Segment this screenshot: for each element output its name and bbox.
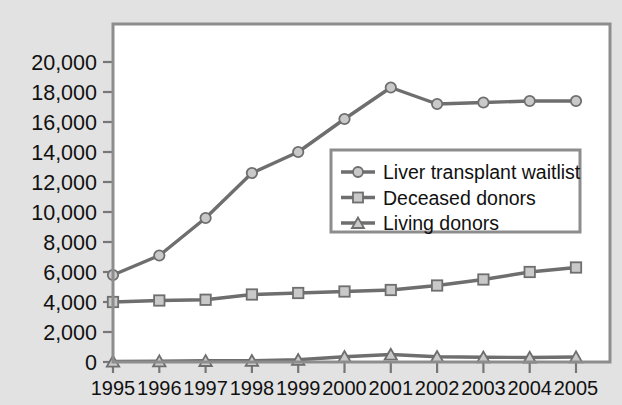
square-data-point xyxy=(525,267,535,277)
circle-data-point xyxy=(353,167,363,177)
y-axis-tick-labels: 02,0004,0006,0008,00010,00012,00014,0001… xyxy=(31,51,97,375)
x-axis-tick-label: 2002 xyxy=(415,377,460,399)
x-axis-tick-labels: 1995199619971998199920002001200220032004… xyxy=(91,377,599,399)
line-chart: 02,0004,0006,0008,00010,00012,00014,0001… xyxy=(0,0,622,405)
circle-data-point xyxy=(293,147,303,157)
square-data-point xyxy=(386,285,396,295)
square-data-point xyxy=(571,262,581,272)
x-axis-tick-label: 2001 xyxy=(369,377,414,399)
circle-data-point xyxy=(200,213,210,223)
square-data-point xyxy=(432,280,442,290)
square-data-point xyxy=(293,288,303,298)
y-axis-tick-label: 14,000 xyxy=(31,141,97,165)
circle-data-point xyxy=(154,250,164,260)
y-axis-tick-label: 12,000 xyxy=(31,171,97,195)
x-axis-tick-label: 2004 xyxy=(507,377,552,399)
circle-data-point xyxy=(339,114,349,124)
square-data-point xyxy=(353,193,363,203)
y-axis-tick-label: 0 xyxy=(85,351,97,375)
x-axis-tick-label: 2003 xyxy=(461,377,506,399)
square-data-point xyxy=(478,274,488,284)
y-axis-tick-label: 16,000 xyxy=(31,111,97,135)
y-axis-tick-label: 2,000 xyxy=(43,321,97,345)
chart-legend: Liver transplant waitlistDeceased donors… xyxy=(331,150,581,234)
y-axis-tick-label: 4,000 xyxy=(43,291,97,315)
legend-label: Liver transplant waitlist xyxy=(383,161,581,183)
y-axis-tick-label: 18,000 xyxy=(31,81,97,105)
legend-label: Deceased donors xyxy=(383,187,536,209)
x-axis-tick-label: 1996 xyxy=(137,377,182,399)
x-axis-tick-label: 1995 xyxy=(91,377,136,399)
square-data-point xyxy=(200,295,210,305)
chart-figure: 02,0004,0006,0008,00010,00012,00014,0001… xyxy=(0,0,622,405)
x-axis-tick-label: 2005 xyxy=(554,377,599,399)
circle-data-point xyxy=(478,97,488,107)
square-data-point xyxy=(339,286,349,296)
x-axis-tick-label: 2000 xyxy=(322,377,367,399)
y-axis-tick-label: 8,000 xyxy=(43,231,97,255)
circle-data-point xyxy=(525,96,535,106)
circle-data-point xyxy=(571,96,581,106)
y-axis-tick-label: 20,000 xyxy=(31,51,97,75)
x-axis-tick-label: 1998 xyxy=(230,377,275,399)
y-axis-tick-label: 10,000 xyxy=(31,201,97,225)
circle-data-point xyxy=(432,99,442,109)
x-axis-tick-label: 1999 xyxy=(276,377,321,399)
x-axis-tick-marks xyxy=(113,362,576,373)
square-data-point xyxy=(154,295,164,305)
circle-data-point xyxy=(247,168,257,178)
legend-label: Living donors xyxy=(383,212,499,234)
x-axis-tick-label: 1997 xyxy=(183,377,228,399)
circle-data-point xyxy=(386,82,396,92)
y-axis-tick-label: 6,000 xyxy=(43,261,97,285)
square-data-point xyxy=(247,289,257,299)
